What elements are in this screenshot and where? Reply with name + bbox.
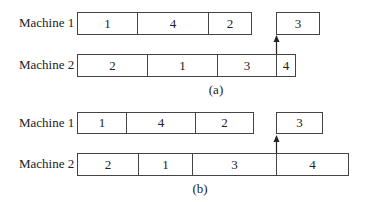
arrows — [0, 0, 365, 202]
arrow-b — [274, 135, 280, 153]
arrow-a — [274, 35, 280, 54]
